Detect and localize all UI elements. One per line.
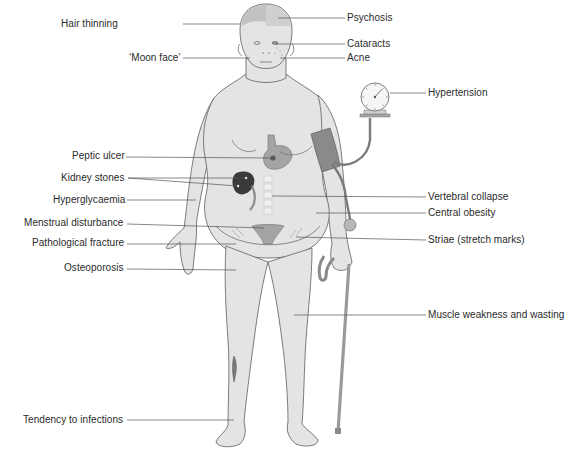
label-cataracts: Cataracts [347, 38, 390, 50]
label-vertebral-collapse: Vertebral collapse [428, 191, 508, 203]
label-hyperglycaemia: Hyperglycaemia [53, 194, 125, 206]
label-muscle-weakness: Muscle weakness and wasting [428, 309, 564, 321]
label-psychosis: Psychosis [347, 12, 392, 24]
label-striae: Striae (stretch marks) [428, 234, 525, 246]
label-pathological-fracture: Pathological fracture [32, 237, 124, 249]
psychosis-region [266, 5, 291, 26]
label-central-obesity: Central obesity [428, 207, 495, 219]
label-menstrual-disturbance: Menstrual disturbance [24, 217, 123, 229]
label-hypertension: Hypertension [428, 87, 488, 99]
human-figure-illustration [0, 0, 581, 462]
label-peptic-ulcer: Peptic ulcer [72, 150, 125, 162]
walking-cane [319, 256, 349, 434]
label-moon-face: ‘Moon face’ [129, 52, 181, 64]
label-osteoporosis: Osteoporosis [64, 262, 124, 274]
cushings-syndrome-diagram: Hair thinning ‘Moon face’ Peptic ulcer K… [0, 0, 581, 462]
label-acne: Acne [347, 52, 370, 64]
label-hair-thinning: Hair thinning [61, 18, 118, 30]
spine [264, 176, 272, 214]
label-kidney-stones: Kidney stones [61, 172, 124, 184]
label-tendency-to-infections: Tendency to infections [23, 414, 123, 426]
